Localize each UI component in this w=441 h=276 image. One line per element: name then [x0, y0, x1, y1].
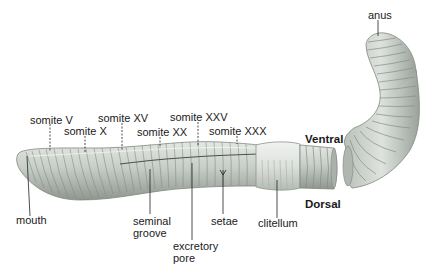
- label-somite-xx: somite XX: [137, 126, 187, 138]
- label-clitellum: clitellum: [258, 217, 298, 229]
- label-somite-x: somite X: [64, 125, 107, 137]
- label-excretory-pore-line1: excretory: [173, 240, 218, 252]
- label-anus: anus: [368, 9, 392, 21]
- label-setae: setae: [211, 215, 238, 227]
- label-excretory-pore-line2: pore: [173, 252, 195, 264]
- tail-piece: [343, 33, 419, 188]
- label-somite-xxx: somite XXX: [209, 125, 266, 137]
- label-somite-xxv: somite XXV: [170, 111, 227, 123]
- anterior-body: [17, 142, 258, 200]
- earthworm-illustration: [0, 0, 441, 276]
- label-ventral: Ventral: [305, 133, 343, 145]
- label-somite-xv: somite XV: [98, 112, 148, 124]
- clitellum-band: [256, 142, 300, 190]
- label-seminal-groove-line2: groove: [133, 227, 167, 239]
- label-seminal-groove-line1: seminal: [133, 215, 171, 227]
- posterior-stub: [300, 145, 337, 189]
- label-mouth: mouth: [16, 214, 47, 226]
- label-dorsal: Dorsal: [305, 198, 341, 210]
